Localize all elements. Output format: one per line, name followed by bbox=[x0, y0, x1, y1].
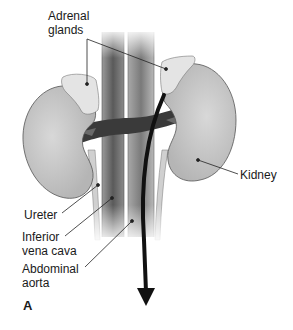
label-ureter: Ureter bbox=[24, 208, 57, 222]
label-kidney: Kidney bbox=[240, 168, 277, 182]
label-adrenal-glands: Adrenal glands bbox=[48, 9, 89, 37]
label-abdominal-aorta: Abdominal aorta bbox=[22, 262, 79, 290]
label-inferior-vena-cava: Inferior vena cava bbox=[22, 230, 77, 258]
panel-letter: A bbox=[23, 298, 32, 313]
